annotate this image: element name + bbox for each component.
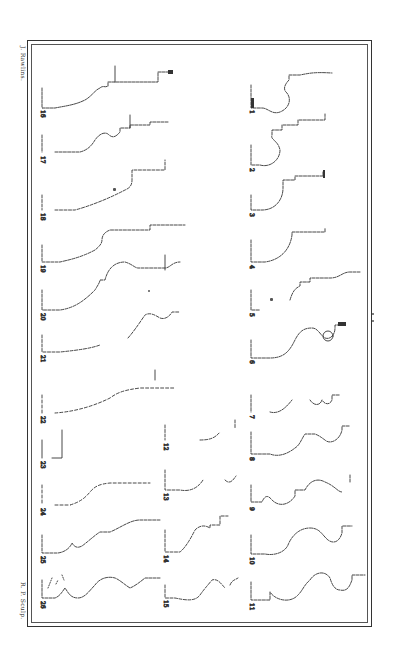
profile-number: 23 xyxy=(40,461,47,469)
profile-18: 18 xyxy=(40,160,165,221)
profile-number: 9 xyxy=(249,507,256,511)
profile-number: 20 xyxy=(40,313,47,321)
profile-15: 15 xyxy=(163,578,238,608)
profile-number: 21 xyxy=(40,355,47,363)
profile-19: 19 xyxy=(40,225,185,273)
profile-number: 14 xyxy=(163,555,170,563)
profile-10: 10 xyxy=(249,526,352,565)
profile-24: 24 xyxy=(40,483,150,516)
profile-number: 24 xyxy=(40,508,47,516)
profile-number: 2 xyxy=(249,168,256,172)
profile-4: 4 xyxy=(249,228,325,269)
profile-23: 23 xyxy=(40,430,62,469)
profile-number: 12 xyxy=(163,443,170,451)
profile-number: 4 xyxy=(249,265,256,269)
profile-9: 9 xyxy=(249,475,350,511)
profile-number: 1 xyxy=(249,110,256,114)
profile-number: 16 xyxy=(40,110,47,118)
profile-1: 1 xyxy=(249,73,332,114)
profile-number: 13 xyxy=(163,493,170,501)
profile-number: 15 xyxy=(163,600,170,608)
profile-3: 3 xyxy=(249,170,325,217)
profile-25: 25 xyxy=(40,520,160,564)
profile-number: 22 xyxy=(40,416,47,424)
profile-number: 10 xyxy=(249,557,256,565)
profile-12: 12 xyxy=(163,420,235,451)
profile-14: 14 xyxy=(163,516,228,563)
profile-7: 7 xyxy=(249,395,340,419)
profile-number: 8 xyxy=(249,457,256,461)
profile-number: 3 xyxy=(249,213,256,217)
profile-2: 2 xyxy=(249,114,325,172)
profile-11: 11 xyxy=(249,573,365,611)
moulding-profiles: 1 2 3 4 5 6 7 8 xyxy=(0,0,396,653)
profile-number: 5 xyxy=(249,313,256,317)
profile-number: 6 xyxy=(249,360,256,364)
profile-number: 11 xyxy=(249,603,256,611)
profile-number: 7 xyxy=(249,415,256,419)
profile-22: 22 xyxy=(40,370,175,424)
profile-16: 16 xyxy=(40,66,173,118)
profile-5: 5 xyxy=(249,272,360,317)
profile-number: 18 xyxy=(40,213,47,221)
profile-8: 8 xyxy=(249,426,350,461)
profile-13: 13 xyxy=(163,470,236,501)
profile-number: 19 xyxy=(40,265,47,273)
profile-number: 17 xyxy=(40,156,47,164)
profile-number: 26 xyxy=(40,601,47,609)
profile-20: 20 xyxy=(40,255,180,321)
profile-26: 26 xyxy=(40,575,160,609)
profile-17: 17 xyxy=(40,115,168,164)
profile-number: 25 xyxy=(40,556,47,564)
profile-21: 21 xyxy=(40,312,180,363)
profile-6: 6 xyxy=(249,322,346,364)
engraving-plate: J. Rawlins. R. P. Sculp. 1 2 3 4 5 xyxy=(0,0,396,653)
